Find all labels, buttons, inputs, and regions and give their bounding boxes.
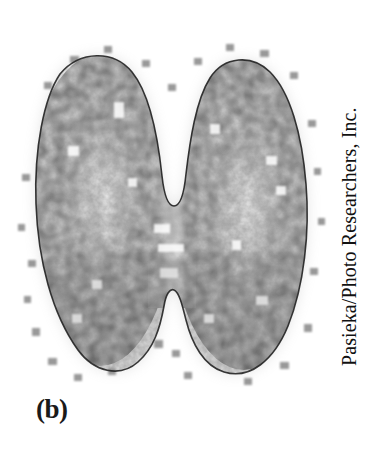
scan-raster <box>8 28 328 388</box>
thyroid-scan-image <box>8 28 328 388</box>
panel-label: (b) <box>36 396 68 423</box>
figure-panel: (b) Pasieka/Photo Researchers, Inc. <box>0 0 381 464</box>
photo-credit: Pasieka/Photo Researchers, Inc. <box>332 36 366 366</box>
